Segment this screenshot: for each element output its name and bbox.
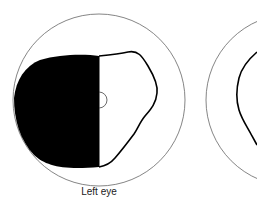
right-eye-visual-field-outline — [237, 52, 257, 145]
left-eye-label: Left eye — [69, 186, 129, 197]
left-eye-blind-spot — [99, 92, 107, 108]
left-eye-blind-hemifield — [14, 55, 99, 168]
visual-field-diagram — [0, 0, 257, 214]
right-eye-field — [206, 14, 257, 186]
right-eye-outer-circle — [206, 14, 257, 186]
left-eye-field — [13, 14, 185, 186]
left-eye-visual-field-outline — [99, 52, 157, 167]
